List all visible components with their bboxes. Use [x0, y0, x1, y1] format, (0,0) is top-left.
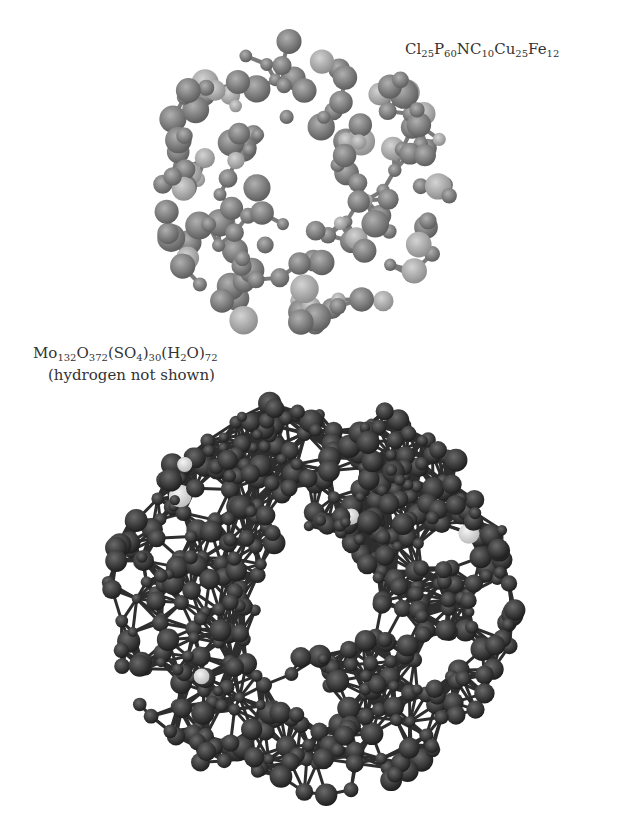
molecule-render-canvas — [0, 0, 632, 813]
